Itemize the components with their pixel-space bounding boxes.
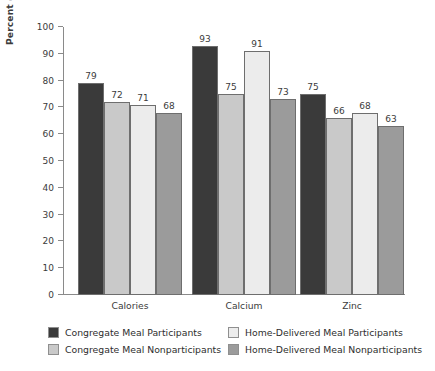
y-tick-label: 80 xyxy=(43,75,54,87)
bars-layer: 797271689375917375666863 xyxy=(63,27,405,295)
y-tick-label: 0 xyxy=(48,289,54,301)
x-tick-label: Calories xyxy=(112,300,149,311)
bar[interactable]: 68 xyxy=(156,113,182,295)
bar[interactable]: 72 xyxy=(104,102,130,295)
y-tick-label: 100 xyxy=(37,21,54,33)
y-tick-label: 40 xyxy=(43,182,54,194)
bar[interactable]: 75 xyxy=(300,94,326,295)
y-tick: 10 xyxy=(0,262,63,274)
y-tick: 60 xyxy=(0,128,63,140)
y-tick-label: 70 xyxy=(43,101,54,113)
y-tick-label: 50 xyxy=(43,155,54,167)
legend-label: Home-Delivered Meal Nonparticipants xyxy=(245,344,422,355)
y-tick: 40 xyxy=(0,182,63,194)
bar[interactable]: 71 xyxy=(130,105,156,295)
legend-swatch-icon xyxy=(48,327,59,338)
bar-value-label: 73 xyxy=(277,87,288,98)
chart-legend: Congregate Meal ParticipantsHome-Deliver… xyxy=(48,327,428,361)
legend-item[interactable]: Home-Delivered Meal Nonparticipants xyxy=(228,344,422,355)
bar-value-label: 68 xyxy=(359,101,370,112)
bar[interactable]: 68 xyxy=(352,113,378,295)
legend-item[interactable]: Congregate Meal Participants xyxy=(48,327,228,338)
legend-row: Congregate Meal ParticipantsHome-Deliver… xyxy=(48,327,428,344)
bar-value-label: 63 xyxy=(385,114,396,125)
bar-value-label: 75 xyxy=(225,82,236,93)
bar-group: 75666863 xyxy=(300,27,404,295)
bar[interactable]: 75 xyxy=(218,94,244,295)
legend-label: Congregate Meal Nonparticipants xyxy=(65,344,221,355)
bar[interactable]: 93 xyxy=(192,46,218,295)
bar-value-label: 93 xyxy=(199,34,210,45)
bar-group: 79727168 xyxy=(78,27,182,295)
x-tick-label: Zinc xyxy=(342,300,362,311)
y-tick: 90 xyxy=(0,48,63,60)
chart-figure: Percent of Recommended Intake 0102030405… xyxy=(0,0,435,371)
bar[interactable]: 66 xyxy=(326,118,352,295)
bar-value-label: 79 xyxy=(85,71,96,82)
y-tick-label: 10 xyxy=(43,262,54,274)
legend-swatch-icon xyxy=(228,344,239,355)
y-tick: 20 xyxy=(0,235,63,247)
bar[interactable]: 63 xyxy=(378,126,404,295)
legend-item[interactable]: Congregate Meal Nonparticipants xyxy=(48,344,228,355)
y-tick-label: 30 xyxy=(43,209,54,221)
bar[interactable]: 91 xyxy=(244,51,270,295)
bar-value-label: 71 xyxy=(137,93,148,104)
bar-value-label: 75 xyxy=(307,82,318,93)
bar[interactable]: 73 xyxy=(270,99,296,295)
bar-value-label: 66 xyxy=(333,106,344,117)
y-tick: 80 xyxy=(0,75,63,87)
y-axis-title: Percent of Recommended Intake xyxy=(2,0,18,74)
y-tick: 70 xyxy=(0,101,63,113)
legend-label: Congregate Meal Participants xyxy=(65,327,202,338)
y-tick-label: 90 xyxy=(43,48,54,60)
legend-label: Home-Delivered Meal Participants xyxy=(245,327,403,338)
x-tick-label: Calcium xyxy=(226,300,263,311)
bar-value-label: 68 xyxy=(163,101,174,112)
y-tick: 30 xyxy=(0,209,63,221)
bar-value-label: 91 xyxy=(251,39,262,50)
y-tick: 100 xyxy=(0,21,63,33)
bar-group: 93759173 xyxy=(192,27,296,295)
legend-swatch-icon xyxy=(228,327,239,338)
bar[interactable]: 79 xyxy=(78,83,104,295)
y-tick-label: 60 xyxy=(43,128,54,140)
legend-item[interactable]: Home-Delivered Meal Participants xyxy=(228,327,403,338)
y-tick-label: 20 xyxy=(43,235,54,247)
bar-value-label: 72 xyxy=(111,90,122,101)
legend-swatch-icon xyxy=(48,344,59,355)
legend-row: Congregate Meal NonparticipantsHome-Deli… xyxy=(48,344,428,361)
y-tick: 50 xyxy=(0,155,63,167)
y-tick: 0 xyxy=(0,289,63,301)
